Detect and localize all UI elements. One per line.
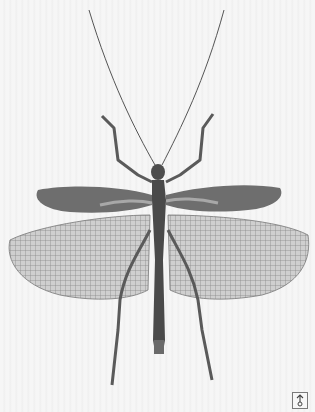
insect-specimen-image <box>0 0 315 412</box>
image-stage <box>0 0 315 412</box>
scroll-to-top-button[interactable] <box>292 392 308 409</box>
arrow-up-circle-icon <box>295 394 305 407</box>
